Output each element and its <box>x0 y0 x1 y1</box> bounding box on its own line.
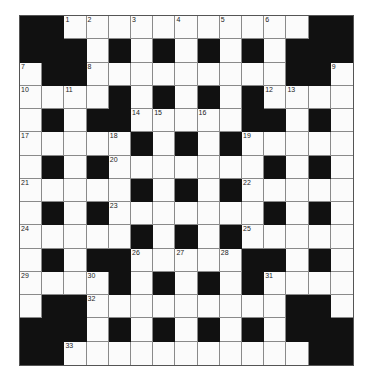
answer-cell[interactable] <box>198 342 220 365</box>
answer-cell[interactable] <box>64 109 86 132</box>
answer-cell[interactable] <box>175 202 197 225</box>
answer-cell[interactable] <box>131 272 153 295</box>
answer-cell[interactable] <box>309 86 331 109</box>
answer-cell[interactable]: 14 <box>131 109 153 132</box>
answer-cell[interactable] <box>175 295 197 318</box>
answer-cell[interactable]: 24 <box>20 225 42 248</box>
answer-cell[interactable]: 27 <box>175 249 197 272</box>
answer-cell[interactable] <box>286 202 308 225</box>
answer-cell[interactable] <box>198 179 220 202</box>
answer-cell[interactable] <box>286 342 308 365</box>
answer-cell[interactable]: 31 <box>264 272 286 295</box>
answer-cell[interactable]: 10 <box>20 86 42 109</box>
answer-cell[interactable] <box>175 39 197 62</box>
answer-cell[interactable] <box>175 86 197 109</box>
answer-cell[interactable]: 32 <box>87 295 109 318</box>
answer-cell[interactable] <box>131 39 153 62</box>
answer-cell[interactable]: 1 <box>64 16 86 39</box>
answer-cell[interactable]: 19 <box>242 132 264 155</box>
answer-cell[interactable] <box>153 342 175 365</box>
answer-cell[interactable] <box>286 249 308 272</box>
answer-cell[interactable] <box>264 225 286 248</box>
answer-cell[interactable] <box>131 202 153 225</box>
answer-cell[interactable] <box>42 132 64 155</box>
answer-cell[interactable]: 5 <box>220 16 242 39</box>
answer-cell[interactable] <box>109 225 131 248</box>
answer-cell[interactable] <box>109 295 131 318</box>
answer-cell[interactable] <box>87 225 109 248</box>
answer-cell[interactable] <box>264 179 286 202</box>
answer-cell[interactable] <box>153 202 175 225</box>
answer-cell[interactable] <box>153 156 175 179</box>
answer-cell[interactable] <box>131 295 153 318</box>
answer-cell[interactable]: 16 <box>198 109 220 132</box>
answer-cell[interactable] <box>264 132 286 155</box>
answer-cell[interactable] <box>331 132 353 155</box>
answer-cell[interactable]: 4 <box>175 16 197 39</box>
answer-cell[interactable] <box>64 156 86 179</box>
answer-cell[interactable] <box>309 225 331 248</box>
answer-cell[interactable] <box>220 202 242 225</box>
answer-cell[interactable] <box>64 272 86 295</box>
answer-cell[interactable] <box>286 272 308 295</box>
answer-cell[interactable] <box>198 156 220 179</box>
answer-cell[interactable]: 29 <box>20 272 42 295</box>
answer-cell[interactable] <box>286 179 308 202</box>
answer-cell[interactable]: 18 <box>109 132 131 155</box>
answer-cell[interactable] <box>42 179 64 202</box>
answer-cell[interactable] <box>87 39 109 62</box>
answer-cell[interactable] <box>264 63 286 86</box>
answer-cell[interactable] <box>331 179 353 202</box>
answer-cell[interactable] <box>64 179 86 202</box>
answer-cell[interactable] <box>153 179 175 202</box>
answer-cell[interactable] <box>220 272 242 295</box>
answer-cell[interactable] <box>198 225 220 248</box>
answer-cell[interactable] <box>87 342 109 365</box>
answer-cell[interactable] <box>42 272 64 295</box>
answer-cell[interactable] <box>331 202 353 225</box>
answer-cell[interactable] <box>153 225 175 248</box>
answer-cell[interactable] <box>20 156 42 179</box>
answer-cell[interactable]: 15 <box>153 109 175 132</box>
answer-cell[interactable] <box>175 318 197 341</box>
answer-cell[interactable] <box>109 63 131 86</box>
answer-cell[interactable] <box>64 132 86 155</box>
answer-cell[interactable] <box>175 109 197 132</box>
answer-cell[interactable] <box>20 295 42 318</box>
answer-cell[interactable]: 11 <box>64 86 86 109</box>
answer-cell[interactable]: 17 <box>20 132 42 155</box>
answer-cell[interactable] <box>20 249 42 272</box>
answer-cell[interactable] <box>198 63 220 86</box>
answer-cell[interactable] <box>42 86 64 109</box>
answer-cell[interactable]: 21 <box>20 179 42 202</box>
answer-cell[interactable] <box>331 86 353 109</box>
answer-cell[interactable] <box>309 272 331 295</box>
answer-cell[interactable] <box>131 342 153 365</box>
answer-cell[interactable]: 20 <box>109 156 131 179</box>
answer-cell[interactable] <box>20 202 42 225</box>
answer-cell[interactable] <box>264 39 286 62</box>
answer-cell[interactable] <box>264 318 286 341</box>
answer-cell[interactable] <box>131 156 153 179</box>
answer-cell[interactable] <box>42 225 64 248</box>
answer-cell[interactable]: 28 <box>220 249 242 272</box>
answer-cell[interactable] <box>153 295 175 318</box>
answer-cell[interactable] <box>153 132 175 155</box>
answer-cell[interactable] <box>109 342 131 365</box>
answer-cell[interactable] <box>131 86 153 109</box>
answer-cell[interactable] <box>198 16 220 39</box>
answer-cell[interactable] <box>131 318 153 341</box>
answer-cell[interactable] <box>331 156 353 179</box>
answer-cell[interactable]: 26 <box>131 249 153 272</box>
answer-cell[interactable] <box>331 109 353 132</box>
answer-cell[interactable] <box>331 249 353 272</box>
answer-cell[interactable] <box>175 63 197 86</box>
answer-cell[interactable] <box>198 132 220 155</box>
answer-cell[interactable] <box>131 63 153 86</box>
answer-cell[interactable]: 12 <box>264 86 286 109</box>
answer-cell[interactable] <box>242 156 264 179</box>
answer-cell[interactable] <box>87 318 109 341</box>
answer-cell[interactable] <box>309 179 331 202</box>
answer-cell[interactable] <box>220 342 242 365</box>
answer-cell[interactable] <box>64 225 86 248</box>
